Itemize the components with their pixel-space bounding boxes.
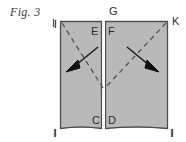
right-panel-shape	[106, 22, 168, 129]
center-seam-gap	[102, 22, 105, 129]
label-bottom-right-corner-I: I	[170, 128, 173, 139]
label-inner-left-top-E: E	[91, 26, 98, 37]
label-inner-right-top-F: F	[108, 26, 115, 37]
label-bottom-left-corner-I: I	[53, 128, 56, 139]
label-top-center-G: G	[109, 6, 118, 17]
label-top-right-corner-K: K	[172, 16, 179, 27]
label-inner-left-bottom-C: C	[92, 115, 100, 126]
left-panel-shape	[61, 22, 102, 129]
label-top-left-corner-I: I	[52, 18, 55, 29]
figure-3-illustration: Fig. 3 I G K E F C D I	[0, 0, 186, 142]
label-inner-right-bottom-D: D	[108, 115, 116, 126]
